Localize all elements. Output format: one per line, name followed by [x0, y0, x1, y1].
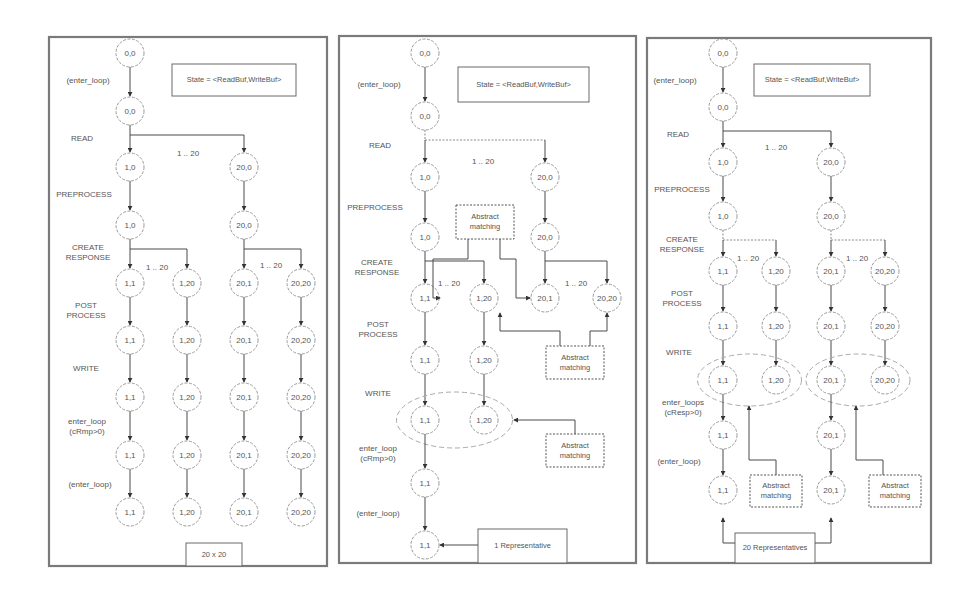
- state-node: 20,1: [230, 383, 258, 411]
- state-node-label: 1,1: [419, 356, 431, 365]
- state-node: 20,1: [230, 441, 258, 469]
- state-node: 1,0: [411, 223, 439, 251]
- step-label: (enter_loop): [356, 509, 399, 518]
- state-node-label: 1,1: [717, 267, 729, 276]
- state-node-label: 20,0: [537, 173, 553, 182]
- state-node-label: 1,0: [717, 158, 729, 167]
- initial-state-node: 0,0: [709, 39, 737, 67]
- state-node-label: 1,0: [124, 221, 136, 230]
- state-node: 20,20: [593, 284, 621, 312]
- state-node-label: 20,1: [236, 336, 252, 345]
- representatives-box: 20 Representatives: [735, 533, 815, 563]
- state-node-label: 20,20: [291, 393, 312, 402]
- state-node: 20,1: [230, 326, 258, 354]
- state-node-label: 20,20: [291, 336, 312, 345]
- state-node-label: 1,1: [717, 376, 729, 385]
- state-node-label: 1,1: [717, 486, 729, 495]
- state-node: 1,1: [411, 406, 439, 434]
- abstract-matching-box: Abstractmatching: [546, 346, 604, 379]
- step-label: enter_loop(cRmp>0): [359, 444, 397, 463]
- state-node: 1,0: [116, 153, 144, 181]
- state-node-label: 20,0: [236, 163, 252, 172]
- state-node: 20,20: [287, 326, 315, 354]
- state-node: 1,1: [411, 469, 439, 497]
- abstract-matching-box: Abstractmatching: [456, 205, 514, 239]
- state-legend-box: State = <ReadBuf,WriteBuf>: [458, 67, 589, 102]
- state-node: 20,20: [287, 269, 315, 297]
- state-node-label: 1,1: [124, 393, 136, 402]
- state-node: 20,20: [287, 498, 315, 526]
- state-node-label: 20,20: [875, 267, 896, 276]
- state-node-label: 20,0: [823, 212, 839, 221]
- range-label: 1 .. 20: [260, 261, 283, 270]
- state-node: 1,20: [173, 326, 201, 354]
- state-node-label: 1,1: [419, 541, 431, 550]
- state-node: 1,20: [173, 498, 201, 526]
- state-node-label: 20,1: [823, 376, 839, 385]
- state-node-label: 20,0: [823, 158, 839, 167]
- step-label: (enter_loop): [357, 80, 400, 89]
- state-node: 1,20: [173, 269, 201, 297]
- state-node: 1,1: [116, 383, 144, 411]
- svg-text:Abstractmatching: Abstractmatching: [880, 481, 910, 500]
- state-node: 20,20: [871, 312, 899, 340]
- state-node-label: 1,1: [717, 322, 729, 331]
- state-node-label: 1,20: [768, 267, 784, 276]
- summary-box-20x20: 20 x 20: [186, 543, 242, 566]
- state-node: 0,0: [411, 102, 439, 130]
- step-label: WRITE: [365, 389, 391, 398]
- state-node-label: 0,0: [124, 49, 136, 58]
- state-node: 1,20: [470, 406, 498, 434]
- state-node: 1,1: [116, 498, 144, 526]
- state-node: 20,0: [817, 202, 845, 230]
- state-node: 20,1: [817, 257, 845, 285]
- state-legend-box: State = <ReadBuf,WriteBuf>: [754, 64, 870, 96]
- state-node-label: 20,0: [537, 233, 553, 242]
- state-node-label: 20,1: [236, 508, 252, 517]
- step-label: enter_loops(cResp>0): [662, 398, 704, 417]
- state-node: 1,1: [709, 257, 737, 285]
- state-node-label: 1,20: [768, 376, 784, 385]
- svg-text:20 x 20: 20 x 20: [202, 549, 227, 558]
- state-node: 20,0: [817, 148, 845, 176]
- state-node-label: 1,20: [179, 279, 195, 288]
- svg-text:State = <ReadBuf,WriteBuf>: State = <ReadBuf,WriteBuf>: [187, 75, 282, 84]
- svg-text:State = <ReadBuf,WriteBuf>: State = <ReadBuf,WriteBuf>: [476, 79, 571, 88]
- state-node-label: 20,1: [236, 451, 252, 460]
- state-node-label: 20,0: [236, 221, 252, 230]
- state-node-label: 20,20: [291, 451, 312, 460]
- step-label: READ: [667, 130, 689, 139]
- state-node-label: 1,1: [124, 336, 136, 345]
- step-label: PREPROCESS: [654, 185, 710, 194]
- state-node-label: 1,20: [179, 451, 195, 460]
- range-label: 1 .. 20: [438, 279, 461, 288]
- state-node: 1,20: [470, 346, 498, 374]
- state-node-label: 20,1: [823, 431, 839, 440]
- state-node-label: 20,20: [597, 294, 618, 303]
- step-label: WRITE: [73, 364, 99, 373]
- representative-box: 1 Representative: [478, 529, 567, 563]
- abstract-matching-box: Abstractmatching: [750, 475, 802, 507]
- state-node: 1,0: [116, 211, 144, 239]
- step-label: (enter_loop): [68, 480, 111, 489]
- step-label: CREATERESPONSE: [660, 235, 704, 254]
- state-node: 1,0: [709, 148, 737, 176]
- state-node-label: 1,1: [717, 431, 729, 440]
- step-label: CREATERESPONSE: [355, 258, 399, 277]
- state-node-label: 20,20: [291, 508, 312, 517]
- state-node-label: 1,20: [768, 322, 784, 331]
- state-node: 1,20: [173, 383, 201, 411]
- state-node: 1,20: [762, 366, 790, 394]
- step-label: CREATERESPONSE: [66, 243, 110, 262]
- state-node: 1,1: [116, 441, 144, 469]
- state-node: 20,20: [871, 257, 899, 285]
- state-node: 20,1: [817, 421, 845, 449]
- state-node-label: 20,1: [823, 322, 839, 331]
- svg-text:State = <ReadBuf,WriteBuf>: State = <ReadBuf,WriteBuf>: [765, 75, 860, 84]
- state-node-label: 1,20: [179, 336, 195, 345]
- state-node-label: 1,1: [124, 279, 136, 288]
- svg-text:Abstractmatching: Abstractmatching: [560, 352, 590, 371]
- state-node: 1,1: [116, 269, 144, 297]
- state-node: 0,0: [116, 97, 144, 125]
- state-node: 20,0: [531, 223, 559, 251]
